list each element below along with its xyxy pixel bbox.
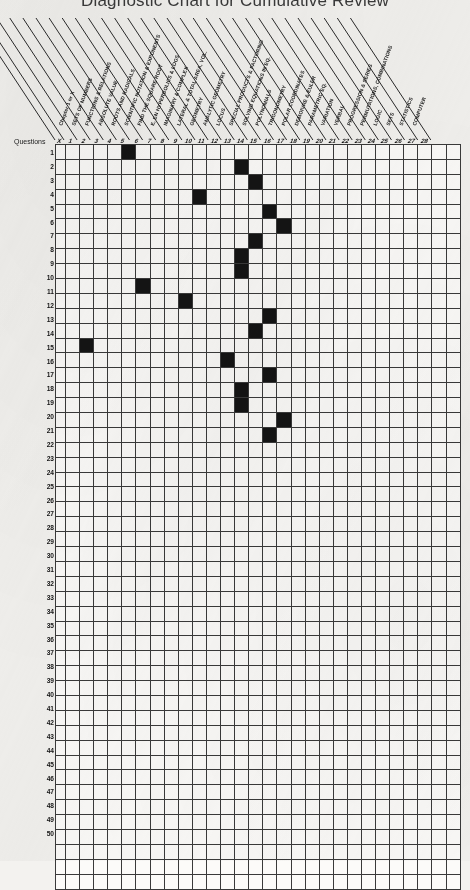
grid-cell-r49-c4[interactable] (108, 859, 122, 874)
grid-cell-r3-c26[interactable] (418, 174, 432, 189)
grid-cell-r21-c25[interactable] (404, 442, 418, 457)
grid-cell-r39-c4[interactable] (108, 710, 122, 725)
grid-cell-r43-c9[interactable] (178, 770, 192, 785)
grid-cell-r12-c8[interactable] (164, 308, 178, 323)
grid-cell-r4-c16[interactable] (277, 189, 291, 204)
grid-cell-r3-c10[interactable] (192, 174, 206, 189)
grid-cell-r31-c16[interactable] (277, 591, 291, 606)
grid-cell-r45-c2[interactable] (80, 800, 94, 815)
grid-cell-r36-cX[interactable] (56, 666, 66, 681)
grid-cell-r26-c10[interactable] (192, 517, 206, 532)
grid-cell-r35-c26[interactable] (418, 651, 432, 666)
grid-cell-r40-c3[interactable] (94, 725, 108, 740)
grid-cell-r31-c8[interactable] (164, 591, 178, 606)
grid-cell-r48-c5[interactable] (122, 844, 136, 859)
grid-cell-r9-c11[interactable] (206, 264, 220, 279)
grid-cell-r25-c2[interactable] (80, 502, 94, 517)
grid-cell-r49-c13[interactable] (235, 859, 249, 874)
grid-cell-r15-c8[interactable] (164, 353, 178, 368)
grid-cell-r41-c10[interactable] (192, 740, 206, 755)
grid-cell-r29-c16[interactable] (277, 561, 291, 576)
grid-cell-r37-c6[interactable] (136, 681, 150, 696)
grid-cell-r50-c20[interactable] (333, 874, 347, 889)
grid-cell-r42-c21[interactable] (347, 755, 361, 770)
grid-cell-r24-cX[interactable] (56, 487, 66, 502)
grid-cell-r46-c26[interactable] (418, 815, 432, 830)
grid-cell-r35-c22[interactable] (361, 651, 375, 666)
grid-cell-r43-c28[interactable] (446, 770, 460, 785)
grid-cell-r42-c5[interactable] (122, 755, 136, 770)
grid-cell-r11-c11[interactable] (206, 293, 220, 308)
grid-cell-r2-c22[interactable] (361, 159, 375, 174)
grid-cell-r21-c1[interactable] (66, 442, 80, 457)
grid-cell-r34-c3[interactable] (94, 636, 108, 651)
grid-cell-r29-c26[interactable] (418, 561, 432, 576)
grid-cell-r5-c27[interactable] (432, 204, 446, 219)
grid-cell-r42-c26[interactable] (418, 755, 432, 770)
grid-cell-r39-c1[interactable] (66, 710, 80, 725)
grid-cell-r36-c14[interactable] (249, 666, 263, 681)
grid-cell-r1-c26[interactable] (418, 145, 432, 160)
grid-cell-r31-c18[interactable] (305, 591, 319, 606)
grid-cell-r35-c5[interactable] (122, 651, 136, 666)
grid-cell-r13-c15[interactable] (263, 323, 277, 338)
grid-cell-r5-c11[interactable] (206, 204, 220, 219)
grid-cell-r24-c18[interactable] (305, 487, 319, 502)
grid-cell-r17-c27[interactable] (432, 383, 446, 398)
grid-cell-r5-c16[interactable] (277, 204, 291, 219)
grid-cell-r20-c7[interactable] (150, 427, 164, 442)
grid-cell-r19-c2[interactable] (80, 413, 94, 428)
grid-cell-r7-c5[interactable] (122, 234, 136, 249)
grid-cell-r43-c15[interactable] (263, 770, 277, 785)
grid-cell-r41-c23[interactable] (376, 740, 390, 755)
grid-cell-r4-c28[interactable] (446, 189, 460, 204)
grid-cell-r39-c8[interactable] (164, 710, 178, 725)
grid-cell-r8-c16[interactable] (277, 249, 291, 264)
grid-cell-r30-c21[interactable] (347, 576, 361, 591)
grid-cell-r4-c8[interactable] (164, 189, 178, 204)
grid-cell-r3-c20[interactable] (333, 174, 347, 189)
grid-cell-r1-c2[interactable] (80, 145, 94, 160)
grid-cell-r42-c22[interactable] (361, 755, 375, 770)
grid-cell-r50-c14[interactable] (249, 874, 263, 889)
grid-cell-r19-c1[interactable] (66, 413, 80, 428)
grid-cell-r26-c7[interactable] (150, 517, 164, 532)
grid-cell-r31-c9[interactable] (178, 591, 192, 606)
grid-cell-r18-c8[interactable] (164, 398, 178, 413)
grid-cell-r28-c23[interactable] (376, 547, 390, 562)
grid-cell-r34-c13[interactable] (235, 636, 249, 651)
grid-cell-r30-c1[interactable] (66, 576, 80, 591)
grid-cell-r32-c13[interactable] (235, 606, 249, 621)
grid-cell-r5-c6[interactable] (136, 204, 150, 219)
grid-cell-r10-c27[interactable] (432, 279, 446, 294)
grid-cell-r13-c18[interactable] (305, 323, 319, 338)
grid-cell-r15-c4[interactable] (108, 353, 122, 368)
grid-cell-r48-c24[interactable] (390, 844, 404, 859)
grid-cell-r35-c1[interactable] (66, 651, 80, 666)
grid-cell-r22-c1[interactable] (66, 457, 80, 472)
grid-cell-r15-c19[interactable] (319, 353, 333, 368)
grid-cell-r29-c5[interactable] (122, 561, 136, 576)
grid-cell-r23-c20[interactable] (333, 472, 347, 487)
grid-cell-r30-c12[interactable] (221, 576, 235, 591)
grid-cell-r28-c25[interactable] (404, 547, 418, 562)
grid-cell-r38-c26[interactable] (418, 695, 432, 710)
grid-cell-r1-c20[interactable] (333, 145, 347, 160)
grid-cell-r20-c26[interactable] (418, 427, 432, 442)
grid-cell-r48-c22[interactable] (361, 844, 375, 859)
grid-cell-r35-c24[interactable] (390, 651, 404, 666)
grid-cell-r40-c1[interactable] (66, 725, 80, 740)
grid-cell-r23-c10[interactable] (192, 472, 206, 487)
grid-cell-r29-c25[interactable] (404, 561, 418, 576)
grid-cell-r6-c3[interactable] (94, 219, 108, 234)
grid-cell-r9-c26[interactable] (418, 264, 432, 279)
grid-cell-r11-cX[interactable] (56, 293, 66, 308)
grid-cell-r30-c8[interactable] (164, 576, 178, 591)
grid-cell-r43-c20[interactable] (333, 770, 347, 785)
grid-cell-r14-c3[interactable] (94, 338, 108, 353)
grid-cell-r32-c28[interactable] (446, 606, 460, 621)
grid-cell-r1-c19[interactable] (319, 145, 333, 160)
grid-cell-r3-c1[interactable] (66, 174, 80, 189)
grid-cell-r27-c9[interactable] (178, 532, 192, 547)
grid-cell-r22-c10[interactable] (192, 457, 206, 472)
